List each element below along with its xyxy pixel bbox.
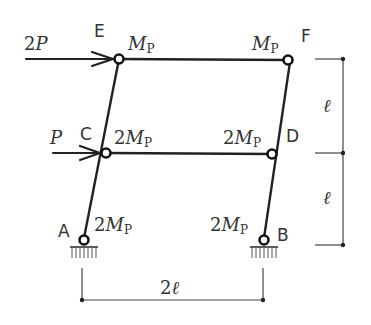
dimension-width: 2ℓ bbox=[80, 268, 265, 302]
node-label-E: E bbox=[94, 21, 105, 41]
load-label-P: P bbox=[49, 127, 63, 148]
pin-B-icon bbox=[260, 236, 269, 245]
load-2P bbox=[26, 52, 113, 66]
node-label-A: A bbox=[58, 221, 70, 241]
hinge-C-icon bbox=[102, 149, 111, 158]
dim-label-width: 2ℓ bbox=[160, 277, 179, 298]
moment-label-E: MP bbox=[127, 33, 155, 56]
node-label-D: D bbox=[286, 126, 299, 146]
moment-label-C: 2MP bbox=[114, 127, 152, 150]
dim-label-upper: ℓ bbox=[323, 95, 331, 116]
hinge-F-icon bbox=[284, 56, 293, 65]
beam-EF bbox=[119, 59, 288, 60]
dim-label-lower: ℓ bbox=[323, 187, 331, 208]
hinge-D-icon bbox=[268, 150, 277, 159]
node-label-B: B bbox=[277, 225, 289, 245]
ground-hatch-icon bbox=[252, 248, 276, 258]
node-label-F: F bbox=[301, 26, 311, 46]
dimension-height: ℓ ℓ bbox=[315, 57, 345, 247]
frame-diagram: E F C D A B 2P P MP MP 2MP 2MP 2MP 2MP ℓ… bbox=[0, 0, 371, 325]
moment-label-A: 2MP bbox=[94, 214, 132, 237]
load-P bbox=[53, 146, 100, 160]
node-label-C: C bbox=[80, 124, 92, 144]
ground-hatch-icon bbox=[72, 248, 96, 258]
moment-label-B: 2MP bbox=[210, 214, 248, 237]
moment-label-D: 2MP bbox=[223, 127, 261, 150]
load-label-2P: 2P bbox=[24, 33, 48, 54]
moment-label-F: MP bbox=[251, 33, 279, 56]
beam-CD bbox=[106, 153, 272, 154]
support-A bbox=[70, 236, 98, 259]
support-B bbox=[250, 236, 278, 259]
pin-A-icon bbox=[80, 236, 89, 245]
hinge-E-icon bbox=[115, 55, 124, 64]
